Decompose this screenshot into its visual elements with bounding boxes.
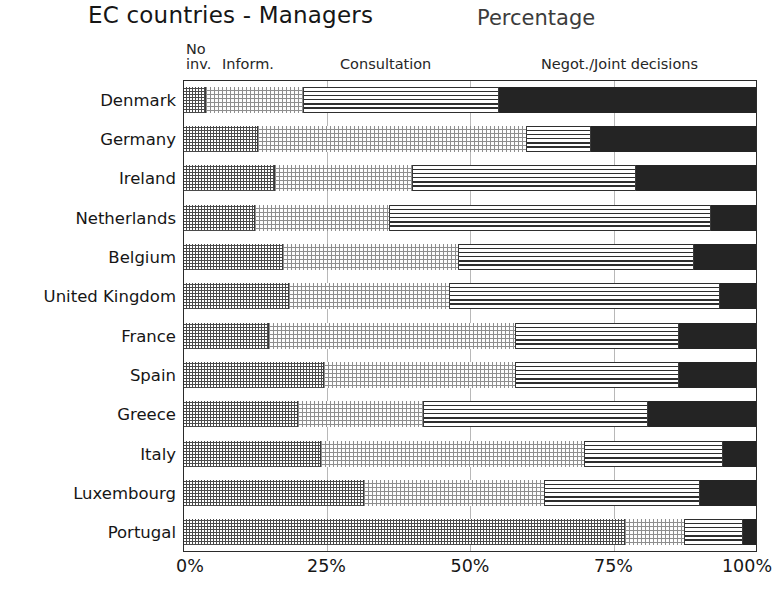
- bar-row: [183, 126, 757, 152]
- bar-segment-inform: [206, 87, 304, 113]
- bar-segment-noinv: [183, 401, 298, 427]
- bar-segment-negot: [720, 283, 757, 309]
- bar-segment-negot: [679, 362, 756, 388]
- bar-segment-consult: [413, 165, 637, 191]
- bar-row: [183, 401, 757, 427]
- bar-segment-inform: [255, 205, 390, 231]
- legend-label-no-inv-line2: inv.: [186, 57, 211, 72]
- legend-label-negot: Negot./Joint decisions: [541, 57, 698, 72]
- x-axis-tick-75: 75%: [594, 556, 633, 576]
- bar-row: [183, 244, 757, 270]
- bar-segment-consult: [545, 480, 700, 506]
- y-axis-label-ireland: Ireland: [0, 169, 176, 188]
- bar-segment-negot: [743, 519, 757, 545]
- bar-row: [183, 480, 757, 506]
- x-axis-tick-50: 50%: [451, 556, 490, 576]
- x-axis: 0%25%50%75%100%: [0, 556, 781, 586]
- bar-segment-negot: [700, 480, 757, 506]
- bar-segment-negot: [711, 205, 757, 231]
- bar-segment-inform: [625, 519, 685, 545]
- bar-segment-negot: [694, 244, 757, 270]
- bar-row: [183, 362, 757, 388]
- bar-segment-noinv: [183, 283, 289, 309]
- bar-segment-inform: [298, 401, 424, 427]
- bar-segment-noinv: [183, 165, 275, 191]
- bar-segment-negot: [648, 401, 757, 427]
- bar-segment-consult: [685, 519, 742, 545]
- chart-plot-area: [183, 80, 757, 552]
- bar-segment-inform: [289, 283, 450, 309]
- legend-label-no-inv: No inv.: [186, 42, 211, 72]
- bar-row: [183, 165, 757, 191]
- bar-row: [183, 205, 757, 231]
- bar-segment-consult: [585, 441, 723, 467]
- bar-segment-noinv: [183, 519, 625, 545]
- bar-segment-negot: [499, 87, 757, 113]
- y-axis-label-greece: Greece: [0, 405, 176, 424]
- bar-segment-noinv: [183, 244, 283, 270]
- y-axis-label-denmark: Denmark: [0, 91, 176, 110]
- bar-segment-inform: [258, 126, 528, 152]
- y-axis-label-luxembourg: Luxembourg: [0, 484, 176, 503]
- legend-label-no-inv-line1: No: [186, 41, 206, 57]
- bar-segment-consult: [390, 205, 711, 231]
- bar-segment-negot: [679, 323, 756, 349]
- bar-segment-noinv: [183, 126, 258, 152]
- bar-segment-noinv: [183, 87, 206, 113]
- y-axis-label-italy: Italy: [0, 445, 176, 464]
- bar-segment-inform: [321, 441, 585, 467]
- bar-segment-inform: [269, 323, 516, 349]
- bar-segment-consult: [516, 323, 680, 349]
- y-axis-label-belgium: Belgium: [0, 248, 176, 267]
- x-axis-tick-100: 100%: [722, 556, 772, 576]
- bar-row: [183, 519, 757, 545]
- legend: No inv. Inform. Consultation Negot./Join…: [0, 42, 781, 72]
- bar-segment-noinv: [183, 441, 321, 467]
- bar-segment-consult: [516, 362, 680, 388]
- bar-segment-inform: [283, 244, 458, 270]
- legend-label-consultation: Consultation: [340, 57, 431, 72]
- bar-segment-negot: [636, 165, 757, 191]
- bar-row: [183, 283, 757, 309]
- bar-segment-consult: [424, 401, 648, 427]
- bar-segment-inform: [324, 362, 516, 388]
- x-axis-tick-25: 25%: [307, 556, 346, 576]
- bar-segment-negot: [591, 126, 757, 152]
- bar-segment-negot: [723, 441, 757, 467]
- bar-segment-inform: [275, 165, 413, 191]
- bar-segment-consult: [304, 87, 499, 113]
- y-axis-labels: DenmarkGermanyIrelandNetherlandsBelgiumU…: [0, 80, 176, 552]
- y-axis-label-netherlands: Netherlands: [0, 209, 176, 228]
- y-axis-label-portugal: Portugal: [0, 523, 176, 542]
- y-axis-label-spain: Spain: [0, 366, 176, 385]
- bar-segment-noinv: [183, 323, 269, 349]
- x-axis-tick-0: 0%: [176, 556, 204, 576]
- legend-label-inform: Inform.: [222, 57, 274, 72]
- bar-segment-consult: [527, 126, 590, 152]
- bar-segment-noinv: [183, 480, 364, 506]
- y-axis-label-france: France: [0, 327, 176, 346]
- y-axis-label-germany: Germany: [0, 130, 176, 149]
- bar-segment-consult: [459, 244, 694, 270]
- bar-segment-noinv: [183, 205, 255, 231]
- bar-segment-inform: [364, 480, 545, 506]
- page-title: EC countries - Managers: [88, 2, 373, 28]
- bar-segment-consult: [450, 283, 720, 309]
- y-axis-label-united-kingdom: United Kingdom: [0, 287, 176, 306]
- bar-segment-noinv: [183, 362, 324, 388]
- bar-row: [183, 87, 757, 113]
- bar-row: [183, 323, 757, 349]
- bar-row: [183, 441, 757, 467]
- percentage-label: Percentage: [477, 6, 595, 30]
